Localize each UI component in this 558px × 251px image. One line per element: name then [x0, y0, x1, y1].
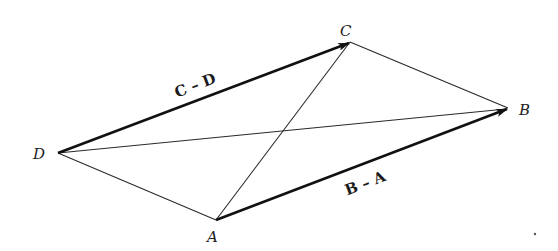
vertex-label-c: C	[340, 22, 352, 40]
label-c-minus-d: C – D	[172, 69, 218, 101]
vector-c-minus-d	[58, 43, 349, 153]
diagonal-db	[58, 109, 506, 153]
vertex-label-a: A	[205, 228, 218, 246]
label-b-minus-a: B – A	[342, 167, 388, 199]
stray-mark	[534, 233, 536, 235]
vector-quadrilateral-diagram: C – D B – A C B D A	[0, 0, 558, 251]
vector-b-minus-a	[216, 109, 507, 220]
segment-da	[58, 153, 216, 220]
vertex-label-d: D	[32, 145, 45, 163]
vertex-label-b: B	[518, 101, 530, 119]
segment-cb	[350, 42, 508, 108]
